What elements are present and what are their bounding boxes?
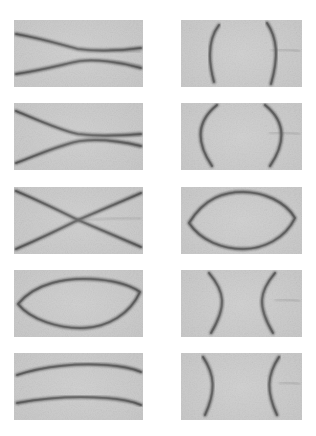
fringe-panel-3-1 bbox=[14, 187, 143, 254]
fringe-curve-primary bbox=[265, 105, 281, 166]
fringe-panel-2-1 bbox=[14, 103, 143, 170]
fringe-curve-primary bbox=[18, 279, 140, 328]
fringe-panel-5-1 bbox=[14, 353, 143, 420]
fringe-panel-5-2 bbox=[181, 353, 302, 420]
fringe-curve-secondary bbox=[279, 383, 300, 384]
fringe-curve-secondary bbox=[275, 300, 300, 301]
panel-fringe-curves bbox=[181, 187, 302, 254]
panel-fringe-curves bbox=[181, 20, 302, 87]
panel-fringe-curves bbox=[14, 353, 143, 420]
panel-fringe-curves bbox=[14, 270, 143, 337]
fringe-curve-halo bbox=[18, 279, 140, 328]
fringe-panel-1-2 bbox=[181, 20, 302, 87]
fringe-curve-halo bbox=[16, 111, 141, 136]
fringe-curve-secondary bbox=[80, 218, 141, 220]
fringe-panel-4-2 bbox=[181, 270, 302, 337]
panel-fringe-curves bbox=[14, 187, 143, 254]
fringe-curve-halo bbox=[16, 140, 141, 163]
panel-fringe-curves bbox=[14, 103, 143, 170]
fringe-curve-halo bbox=[189, 192, 295, 249]
fringe-curve-halo bbox=[17, 397, 141, 405]
fringe-curve-primary bbox=[16, 111, 141, 136]
fringe-panel-1-1 bbox=[14, 20, 143, 87]
fringe-panel-2-2 bbox=[181, 103, 302, 170]
fringe-curve-halo bbox=[16, 60, 141, 74]
fringe-curve-secondary bbox=[269, 133, 300, 134]
figure-panel-grid bbox=[0, 0, 316, 436]
panel-fringe-curves bbox=[181, 270, 302, 337]
fringe-panel-3-2 bbox=[181, 187, 302, 254]
fringe-curve-primary bbox=[201, 105, 217, 166]
fringe-curve-primary bbox=[262, 273, 275, 333]
panel-fringe-curves bbox=[181, 353, 302, 420]
panel-fringe-curves bbox=[181, 103, 302, 170]
fringe-panel-4-1 bbox=[14, 270, 143, 337]
fringe-curve-primary bbox=[209, 273, 222, 333]
fringe-curve-halo bbox=[16, 34, 141, 50]
panel-fringe-curves bbox=[14, 20, 143, 87]
